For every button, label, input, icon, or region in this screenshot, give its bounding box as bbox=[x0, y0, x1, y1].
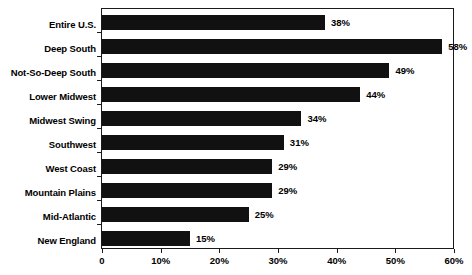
bar-row: Mountain Plains29% bbox=[0, 180, 472, 204]
x-axis-tick-label: 20% bbox=[210, 255, 229, 266]
bar-value-label: 15% bbox=[196, 233, 215, 244]
x-axis-tick bbox=[278, 249, 279, 253]
y-axis-tick bbox=[97, 104, 101, 105]
bar bbox=[102, 135, 284, 150]
bar bbox=[102, 87, 360, 102]
x-axis-tick-label: 40% bbox=[327, 255, 346, 266]
y-axis-tick bbox=[97, 176, 101, 177]
bar-row: Entire U.S.38% bbox=[0, 12, 472, 36]
y-axis-tick bbox=[97, 152, 101, 153]
bar-row: West Coast29% bbox=[0, 156, 472, 180]
x-axis-tick-label: 50% bbox=[386, 255, 405, 266]
bar-with-value: 58% bbox=[102, 39, 467, 54]
y-axis-tick bbox=[97, 128, 101, 129]
bar-with-value: 49% bbox=[102, 63, 414, 78]
category-label: Mountain Plains bbox=[0, 187, 96, 198]
bar-value-label: 31% bbox=[290, 137, 309, 148]
bar-value-label: 25% bbox=[255, 209, 274, 220]
bar-rows: Entire U.S.38%Deep South58%Not-So-Deep S… bbox=[0, 8, 472, 249]
bar-value-label: 49% bbox=[395, 65, 414, 76]
x-axis-tick bbox=[102, 249, 103, 253]
y-axis-tick bbox=[97, 200, 101, 201]
bar bbox=[102, 39, 442, 54]
bar-row: Not-So-Deep South49% bbox=[0, 60, 472, 84]
bar-value-label: 29% bbox=[278, 161, 297, 172]
x-axis-tick-label: 10% bbox=[151, 255, 170, 266]
x-axis-tick bbox=[337, 249, 338, 253]
category-label: West Coast bbox=[0, 163, 96, 174]
bar-chart: Entire U.S.38%Deep South58%Not-So-Deep S… bbox=[0, 0, 472, 275]
bar-row: Mid-Atlantic25% bbox=[0, 204, 472, 228]
category-label: Mid-Atlantic bbox=[0, 211, 96, 222]
x-axis-tick bbox=[219, 249, 220, 253]
bar bbox=[102, 231, 190, 246]
bar-with-value: 34% bbox=[102, 111, 326, 126]
bar bbox=[102, 207, 249, 222]
bar-with-value: 15% bbox=[102, 231, 215, 246]
y-axis-tick bbox=[97, 32, 101, 33]
bar-with-value: 31% bbox=[102, 135, 309, 150]
bar-value-label: 44% bbox=[366, 89, 385, 100]
x-axis-tick-label: 30% bbox=[268, 255, 287, 266]
bar-value-label: 29% bbox=[278, 185, 297, 196]
category-label: Midwest Swing bbox=[0, 115, 96, 126]
x-axis-tick bbox=[161, 249, 162, 253]
category-label: Deep South bbox=[0, 43, 96, 54]
x-axis-tick bbox=[395, 249, 396, 253]
bar-row: Midwest Swing34% bbox=[0, 108, 472, 132]
bar-with-value: 29% bbox=[102, 159, 297, 174]
bar bbox=[102, 159, 272, 174]
bar-with-value: 25% bbox=[102, 207, 274, 222]
bar-value-label: 58% bbox=[448, 41, 467, 52]
x-axis-tick bbox=[454, 249, 455, 253]
y-axis-tick bbox=[97, 56, 101, 57]
x-axis-tick-label: 60% bbox=[444, 255, 463, 266]
category-label: Entire U.S. bbox=[0, 19, 96, 30]
bar bbox=[102, 183, 272, 198]
y-axis-tick bbox=[97, 224, 101, 225]
x-axis: 010%20%30%40%50%60% bbox=[0, 249, 472, 275]
bar-row: Southwest31% bbox=[0, 132, 472, 156]
category-label: Southwest bbox=[0, 139, 96, 150]
bar bbox=[102, 63, 389, 78]
bar-value-label: 34% bbox=[307, 113, 326, 124]
bar-with-value: 44% bbox=[102, 87, 385, 102]
bar-row: Lower Midwest44% bbox=[0, 84, 472, 108]
category-label: Not-So-Deep South bbox=[0, 67, 96, 78]
bar-value-label: 38% bbox=[331, 17, 350, 28]
category-label: Lower Midwest bbox=[0, 91, 96, 102]
bar-with-value: 38% bbox=[102, 15, 350, 30]
bar-row: Deep South58% bbox=[0, 36, 472, 60]
x-axis-tick-label: 0 bbox=[99, 255, 104, 266]
category-label: New England bbox=[0, 235, 96, 246]
y-axis-tick bbox=[97, 80, 101, 81]
bar bbox=[102, 111, 301, 126]
bar bbox=[102, 15, 325, 30]
bar-with-value: 29% bbox=[102, 183, 297, 198]
